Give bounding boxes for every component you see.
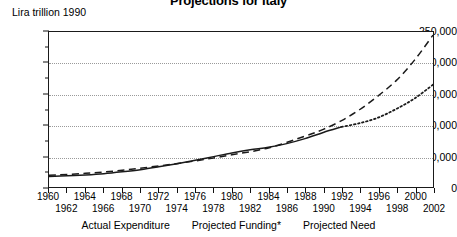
x-tick-label: 2000 (404, 191, 426, 202)
x-tick-label: 1990 (313, 203, 335, 214)
x-tick-label: 1980 (221, 191, 243, 202)
series-line-actual-expenditure (49, 127, 342, 177)
x-tick-label: 1962 (55, 203, 77, 214)
x-tick-label: 1984 (257, 191, 279, 202)
x-tick-label: 1976 (184, 191, 206, 202)
x-tick-label: 1988 (294, 191, 316, 202)
x-tick-label: 1994 (349, 203, 371, 214)
series-line-projected-need (49, 35, 433, 175)
data-series-layer (49, 32, 433, 187)
x-tick-label: 1986 (276, 203, 298, 214)
y-axis-unit-label: Lira trillion 1990 (12, 6, 86, 18)
x-tick-mark (103, 188, 104, 193)
x-tick-mark (177, 188, 178, 193)
x-tick-label: 1966 (92, 203, 114, 214)
x-tick-label: 1978 (202, 203, 224, 214)
series-line-projected-funding (342, 85, 433, 127)
x-tick-label: 1964 (74, 191, 96, 202)
x-tick-label: 1996 (368, 191, 390, 202)
x-tick-label: 1968 (110, 191, 132, 202)
x-tick-label: 1960 (37, 191, 59, 202)
x-tick-label: 1970 (129, 203, 151, 214)
legend-projected-funding: Projected Funding* (192, 219, 281, 231)
x-tick-mark (213, 188, 214, 193)
x-tick-mark (434, 188, 435, 193)
x-tick-label: 1974 (166, 203, 188, 214)
x-tick-mark (66, 188, 67, 193)
x-tick-mark (360, 188, 361, 193)
x-tick-label: 1992 (331, 191, 353, 202)
x-tick-label: 2002 (423, 203, 445, 214)
x-tick-mark (250, 188, 251, 193)
legend-actual-expenditure: Actual Expenditure (82, 219, 170, 231)
plot-area (48, 31, 434, 188)
x-tick-mark (140, 188, 141, 193)
x-tick-mark (397, 188, 398, 193)
x-tick-mark (287, 188, 288, 193)
chart-legend: Actual ExpenditureProjected Funding*Proj… (0, 219, 457, 231)
x-tick-mark (324, 188, 325, 193)
x-tick-label: 1982 (239, 203, 261, 214)
legend-projected-need: Projected Need (303, 219, 375, 231)
chart-root: Projections for Italy Lira trillion 1990… (0, 0, 457, 237)
x-tick-label: 1998 (386, 203, 408, 214)
x-tick-label: 1972 (147, 191, 169, 202)
